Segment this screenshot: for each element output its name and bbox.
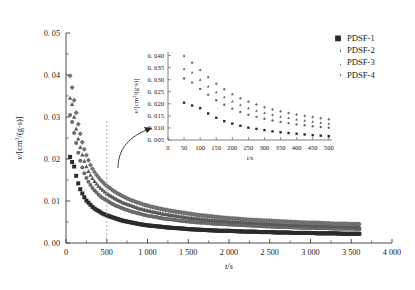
data-point — [88, 173, 92, 177]
inset-data-point — [279, 131, 281, 133]
inset-data-point — [239, 111, 241, 113]
legend: PDSF-1PDSF-2PDSF-3PDSF-4 — [334, 33, 375, 80]
data-point — [70, 160, 74, 164]
inset-data-point — [231, 107, 233, 109]
data-point — [76, 137, 80, 141]
data-point — [84, 164, 88, 168]
data-point — [80, 153, 84, 157]
inset-data-point — [279, 121, 281, 123]
inset-y-tick-label: 0. 030 — [148, 76, 165, 83]
inset-data-point — [312, 125, 314, 127]
x-tick-label: 3 500 — [342, 248, 360, 257]
data-point — [74, 126, 78, 130]
data-point — [76, 122, 81, 127]
x-tick-label: 500 — [101, 248, 113, 257]
legend-item-pdsf-1: PDSF-1 — [335, 33, 375, 43]
inset-x-tick-label: 150 — [211, 144, 222, 151]
legend-marker-square — [335, 36, 341, 42]
inset-data-point — [287, 122, 289, 124]
data-point — [86, 169, 90, 173]
data-point — [80, 165, 84, 169]
inset-data-point — [255, 128, 257, 130]
x-tick-label: 2 500 — [261, 248, 279, 257]
data-point — [68, 113, 72, 117]
y-tick-label: 0. 00 — [44, 239, 60, 248]
inset-x-tick-label: 500 — [324, 144, 335, 151]
data-point — [78, 131, 83, 136]
inset-y-tick-label: 0. 015 — [148, 112, 165, 119]
inset-data-point — [328, 127, 330, 129]
x-axis-title: t/s — [225, 262, 233, 271]
inset-data-point — [255, 116, 257, 118]
inset-x-tick-label: 50 — [181, 144, 188, 151]
data-point — [74, 174, 78, 178]
data-point — [80, 140, 85, 145]
inset-plot: 050100150200250300350400450500t/s0. 0050… — [128, 42, 340, 161]
inset-x-axis-title: t/s — [247, 154, 254, 161]
inset-data-point — [247, 127, 249, 129]
inset-data-point — [207, 112, 209, 114]
inset-data-point — [271, 130, 273, 132]
y-tick-label: 0. 05 — [44, 29, 60, 38]
y-axis-title: v/[cm3/(g·s)] — [14, 116, 24, 159]
inset-data-point — [295, 123, 297, 125]
data-point — [78, 145, 82, 149]
inset-data-point — [263, 118, 265, 120]
inset-data-point — [271, 119, 273, 121]
inset-data-point — [295, 133, 297, 135]
data-point — [78, 159, 82, 163]
inset-data-point — [191, 104, 193, 106]
inset-y-tick-label: 0. 040 — [148, 52, 165, 59]
x-axis-ticks: 05001 0001 5002 0002 5003 0003 5004 000 — [64, 239, 401, 257]
inset-data-point — [223, 104, 225, 106]
legend-label: PDSF-2 — [347, 45, 375, 55]
data-point — [82, 159, 86, 163]
data-point — [84, 176, 88, 180]
y-tick-label: 0. 02 — [44, 155, 60, 164]
inset-x-tick-label: 100 — [195, 144, 206, 151]
x-tick-label: 1 000 — [138, 248, 156, 257]
inset-data-point — [247, 113, 249, 115]
inset-y-tick-label: 0. 020 — [148, 100, 165, 107]
inset-data-point — [320, 126, 322, 128]
inset-y-axis-title: v/[cm3/(g·s)] — [132, 79, 141, 114]
data-point — [74, 110, 79, 115]
legend-item-pdsf-4: PDSF-4 — [334, 70, 375, 80]
data-point — [68, 155, 72, 159]
inset-x-tick-label: 200 — [227, 144, 238, 151]
inset-y-tick-label: 0. 035 — [148, 64, 165, 71]
inset-data-point — [215, 117, 217, 119]
legend-item-pdsf-2: PDSF-2 — [335, 45, 375, 55]
inset-data-point — [328, 135, 330, 137]
inset-data-point — [199, 88, 201, 90]
legend-label: PDSF-4 — [347, 70, 375, 80]
data-point — [72, 98, 77, 103]
data-point — [70, 85, 75, 90]
data-point — [72, 165, 76, 169]
inset-x-tick-label: 450 — [308, 144, 319, 151]
inset-data-point — [223, 120, 225, 122]
y-tick-label: 0. 03 — [44, 113, 60, 122]
data-point — [76, 151, 80, 155]
data-point — [357, 232, 361, 236]
legend-label: PDSF-1 — [347, 33, 375, 43]
inset-data-point — [207, 93, 209, 95]
inset-data-point — [320, 134, 322, 136]
inset-x-tick-label: 400 — [292, 144, 303, 151]
data-point — [72, 131, 76, 135]
data-point — [80, 191, 84, 195]
data-point — [72, 115, 76, 119]
data-point — [76, 181, 80, 185]
inset-x-tick-label: 250 — [243, 144, 254, 151]
x-tick-label: 0 — [64, 248, 68, 257]
x-tick-label: 2 000 — [220, 248, 238, 257]
inset-y-tick-label: 0. 025 — [148, 88, 165, 95]
inset-data-point — [183, 77, 185, 79]
scatter-chart: 05001 0001 5002 0002 5003 0003 5004 000t… — [0, 0, 415, 290]
inset-data-point — [183, 101, 185, 103]
inset-data-point — [199, 107, 201, 109]
data-point — [84, 153, 89, 158]
x-tick-label: 1 500 — [179, 248, 197, 257]
inset-y-axis-title-text: v/[cm3/(g·s)] — [132, 79, 141, 114]
x-tick-label: 4 000 — [383, 248, 401, 257]
